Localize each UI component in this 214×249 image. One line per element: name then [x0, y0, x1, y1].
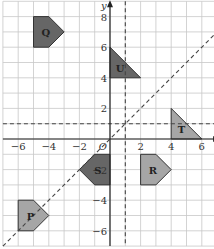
shape-label: T [178, 124, 186, 135]
y-tick-label: 8 [101, 12, 107, 23]
x-axis-arrow-icon [213, 136, 214, 142]
shape-label: Q [41, 27, 50, 38]
x-tick-label: −6 [11, 141, 26, 152]
shape-labels: QUTSRP [27, 27, 186, 222]
x-tick-label: 6 [199, 141, 205, 152]
y-tick-label: 2 [101, 103, 107, 114]
x-tick-label: −2 [72, 141, 87, 152]
origin-label: O [99, 141, 107, 152]
x-tick-label: −4 [41, 141, 56, 152]
shape-label: S [94, 165, 101, 176]
x-tick-label: 4 [168, 141, 174, 152]
x-tick-label: 2 [137, 141, 143, 152]
shape-label: P [27, 211, 35, 222]
y-tick-label: −4 [92, 195, 107, 206]
y-axis-label: y [100, 0, 107, 11]
coordinate-grid: −6−4−22468642−2−4−6Oxy QUTSRP [0, 0, 214, 249]
shape-label: R [149, 165, 158, 176]
y-tick-label: 6 [101, 42, 107, 53]
y-tick-label: 4 [101, 73, 107, 84]
shape-label: U [116, 63, 125, 74]
y-tick-label: −6 [92, 226, 107, 237]
